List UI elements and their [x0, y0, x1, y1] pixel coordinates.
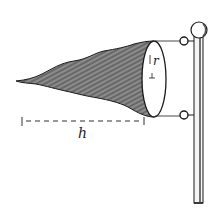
- windsock-cone: [16, 41, 154, 117]
- windsock-diagram: r h: [0, 0, 219, 217]
- pole-finial: [191, 22, 207, 38]
- diagram-canvas: r h: [0, 0, 219, 217]
- cone-opening-ellipse: [142, 41, 166, 117]
- top-ring: [180, 37, 188, 45]
- flagpole: [194, 36, 203, 203]
- bottom-ring: [180, 111, 188, 119]
- height-label: h: [78, 125, 87, 141]
